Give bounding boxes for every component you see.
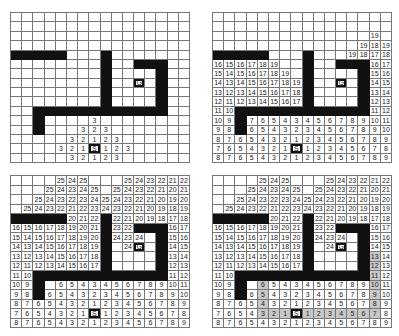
distance-cell: 4	[247, 144, 258, 153]
wall-cell	[280, 107, 291, 116]
empty-cell	[134, 32, 145, 41]
wall-cell	[358, 243, 369, 253]
distance-cell: 2	[78, 319, 89, 329]
distance-cell: 8	[156, 290, 167, 300]
distance-cell: 15	[370, 69, 381, 78]
distance-cell: 20	[291, 233, 302, 243]
empty-cell	[224, 22, 235, 31]
empty-cell	[224, 32, 235, 41]
distance-cell: 17	[291, 97, 302, 106]
wall-cell	[45, 271, 56, 281]
empty-cell	[168, 107, 179, 116]
empty-cell	[89, 176, 100, 186]
distance-cell: 7	[358, 154, 369, 163]
distance-cell: 21	[156, 186, 167, 196]
start-cell: S	[291, 144, 302, 153]
empty-cell	[145, 32, 156, 41]
empty-cell	[370, 13, 381, 22]
wall-cell	[224, 214, 235, 224]
distance-cell: 3	[303, 290, 314, 300]
wall-cell	[347, 107, 358, 116]
distance-cell: 6	[347, 300, 358, 310]
empty-cell	[56, 13, 67, 22]
distance-cell: 25	[303, 195, 314, 205]
distance-cell: 5	[123, 290, 134, 300]
distance-cell: 24	[112, 195, 123, 205]
empty-cell	[112, 88, 123, 97]
distance-cell: 9	[358, 281, 369, 291]
distance-cell: 3	[112, 154, 123, 163]
distance-cell: 17	[247, 224, 258, 234]
wall-cell	[145, 224, 156, 234]
distance-cell: 24	[247, 195, 258, 205]
distance-cell: 6	[45, 290, 56, 300]
empty-cell	[168, 116, 179, 125]
empty-cell	[22, 144, 33, 153]
distance-cell: 8	[22, 290, 33, 300]
distance-cell: 4	[101, 281, 112, 291]
wall-cell	[78, 107, 89, 116]
distance-cell: 13	[224, 79, 235, 88]
distance-cell: 22	[112, 214, 123, 224]
empty-cell	[101, 176, 112, 186]
distance-cell: 1	[89, 300, 100, 310]
distance-cell: 3	[303, 126, 314, 135]
wall-cell	[336, 271, 347, 281]
distance-cell: 22	[123, 224, 134, 234]
distance-cell: 19	[370, 32, 381, 41]
distance-cell: 2	[101, 300, 112, 310]
empty-cell	[123, 60, 134, 69]
empty-cell	[112, 51, 123, 60]
wall-cell	[101, 233, 112, 243]
distance-cell: 2	[67, 144, 78, 153]
distance-cell: 2	[112, 144, 123, 153]
empty-cell	[56, 97, 67, 106]
distance-cell: 18	[280, 79, 291, 88]
empty-cell	[247, 176, 258, 186]
empty-cell	[67, 51, 78, 60]
distance-cell: 25	[112, 186, 123, 196]
empty-cell	[314, 32, 325, 41]
distance-cell: 15	[11, 233, 22, 243]
distance-cell: 6	[33, 319, 44, 329]
distance-cell: 2	[89, 126, 100, 135]
empty-cell	[56, 79, 67, 88]
distance-cell: 15	[269, 97, 280, 106]
empty-cell	[67, 97, 78, 106]
empty-cell	[325, 32, 336, 41]
distance-cell: 7	[224, 319, 235, 329]
empty-cell	[11, 195, 22, 205]
empty-cell	[67, 79, 78, 88]
distance-cell: 9	[168, 290, 179, 300]
start-cell: S	[89, 144, 100, 153]
distance-cell: 19	[347, 214, 358, 224]
distance-cell: 8	[213, 300, 224, 310]
distance-cell: 11	[224, 262, 235, 272]
distance-cell: 17	[179, 224, 190, 234]
distance-cell: 6	[258, 281, 269, 291]
empty-cell	[123, 135, 134, 144]
distance-cell: 3	[123, 144, 134, 153]
distance-cell: 15	[247, 243, 258, 253]
empty-cell	[258, 22, 269, 31]
distance-cell: 22	[280, 205, 291, 215]
wall-cell	[358, 60, 369, 69]
distance-cell: 2	[67, 309, 78, 319]
distance-cell: 17	[258, 233, 269, 243]
empty-cell	[314, 22, 325, 31]
distance-cell: 2	[78, 135, 89, 144]
distance-cell: 7	[22, 300, 33, 310]
distance-cell: 3	[89, 116, 100, 125]
empty-cell	[247, 41, 258, 50]
empty-cell	[280, 41, 291, 50]
empty-cell	[22, 32, 33, 41]
distance-cell: 12	[235, 97, 246, 106]
empty-cell	[123, 51, 134, 60]
wall-cell	[336, 60, 347, 69]
distance-cell: 18	[67, 233, 78, 243]
distance-cell: 11	[370, 271, 381, 281]
wall-cell	[145, 60, 156, 69]
distance-cell: 1	[280, 309, 291, 319]
empty-cell	[134, 69, 145, 78]
distance-cell: 15	[22, 224, 33, 234]
